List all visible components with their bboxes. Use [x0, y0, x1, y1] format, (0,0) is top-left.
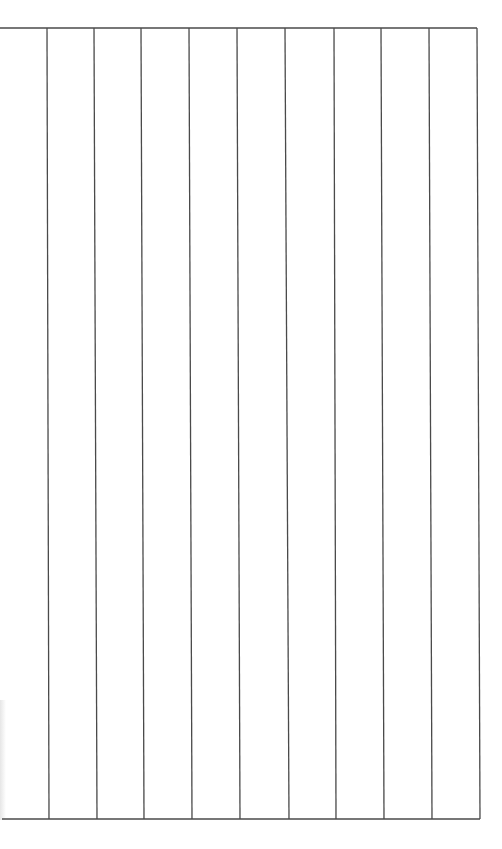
column-divider-line [47, 28, 49, 819]
column-divider-line [334, 28, 336, 819]
ruled-sheet [0, 0, 502, 849]
column-divider-line [429, 28, 432, 819]
right-border-line [477, 28, 480, 819]
column-divider-line [381, 28, 384, 819]
column-divider-line [189, 28, 192, 819]
grid-lines [0, 28, 480, 819]
column-divider-line [285, 28, 289, 819]
column-divider-line [237, 28, 240, 819]
column-divider-line [141, 28, 144, 819]
column-divider-line [94, 28, 97, 819]
